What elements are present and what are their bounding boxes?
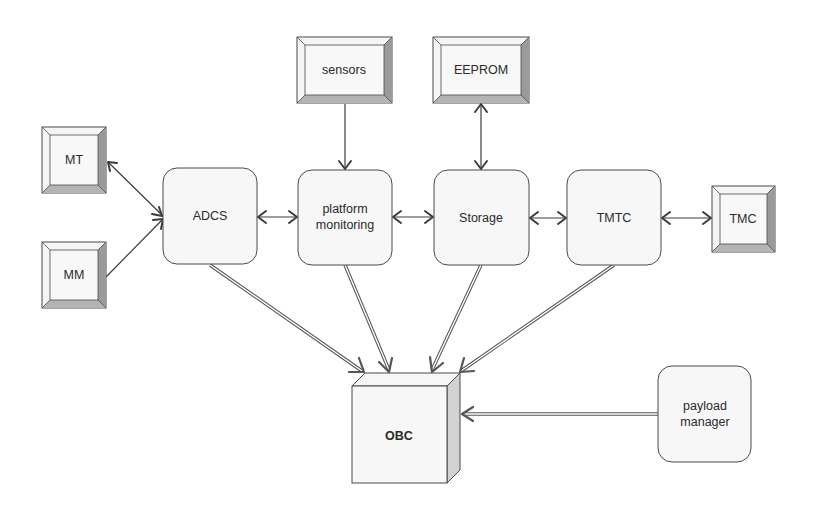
node-label-platform-line1: platform	[322, 202, 367, 216]
node-label-platform-line2: monitoring	[316, 218, 374, 232]
edge-platform-storage	[393, 211, 433, 223]
node-payload-manager: payload manager	[658, 366, 751, 462]
node-mm: MM	[42, 242, 106, 308]
edge-platform-to-obc	[345, 265, 392, 372]
node-sensors: sensors	[297, 37, 392, 103]
node-platform-monitoring: platform monitoring	[298, 170, 392, 265]
edge-payload-to-obc	[462, 407, 658, 421]
node-label-eeprom: EEPROM	[454, 63, 508, 77]
node-tmc: TMC	[712, 186, 775, 252]
edge-storage-to-obc	[430, 265, 481, 372]
node-adcs: ADCS	[163, 168, 257, 264]
edge-storage-tmtc	[530, 212, 566, 224]
node-obc: OBC	[352, 373, 460, 483]
edge-mm-adcs	[106, 219, 163, 277]
edge-adcs-mt	[108, 162, 163, 216]
node-label-tmtc: TMTC	[597, 211, 632, 225]
edge-tmtc-to-obc	[460, 265, 614, 372]
node-eeprom: EEPROM	[433, 37, 529, 103]
edge-tmtc-tmc	[662, 212, 711, 224]
node-label-payload-line1: payload	[683, 399, 727, 413]
node-storage: Storage	[434, 170, 529, 265]
edge-sensors-platform	[339, 104, 351, 169]
node-mt: MT	[42, 127, 106, 193]
node-label-payload-line2: manager	[680, 415, 729, 429]
node-tmtc: TMTC	[567, 170, 661, 265]
node-label-mt: MT	[65, 153, 83, 167]
node-label-obc: OBC	[385, 429, 413, 443]
system-block-diagram: MT MM sensors EEPROM	[0, 0, 816, 511]
node-label-adcs: ADCS	[193, 209, 228, 223]
edge-adcs-platform	[258, 211, 297, 223]
node-label-storage: Storage	[459, 211, 503, 225]
node-label-sensors: sensors	[322, 63, 366, 77]
node-label-tmc: TMC	[729, 212, 756, 226]
edge-eeprom-storage	[475, 104, 487, 169]
node-label-mm: MM	[64, 268, 85, 282]
edge-adcs-to-obc	[210, 265, 364, 372]
